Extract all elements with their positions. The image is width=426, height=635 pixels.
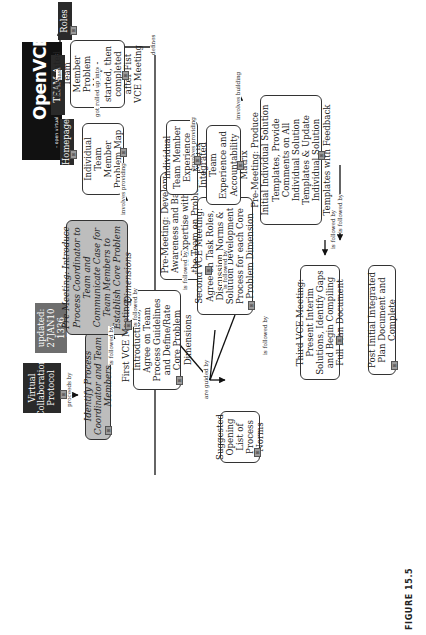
resource-badge-icon[interactable]: ⊞ bbox=[194, 156, 201, 165]
logo-wordmark: OpenVCE bbox=[30, 36, 50, 120]
figure-caption: FIGURE 15.5 bbox=[405, 568, 414, 630]
resource-badge-icon[interactable]: ⊞ bbox=[391, 361, 398, 370]
node-label: Roles bbox=[60, 9, 69, 32]
node-label: Post Initial Integrated Plan Document an… bbox=[367, 270, 398, 370]
resource-badge-icon[interactable]: ⊞ bbox=[70, 26, 77, 35]
individual-problem-map-node[interactable]: Individual Team Member Problem Map bbox=[82, 123, 124, 195]
link-involves-building: involves building bbox=[235, 72, 241, 120]
pre-meeting-solutions-node[interactable]: Pre-Meeting: Produce Initial Individual … bbox=[260, 95, 322, 225]
virtual-collaboration-protocol-node[interactable]: Virtual Collaboration Protocol bbox=[23, 363, 61, 413]
resource-badge-icon[interactable]: ⊞ bbox=[60, 390, 67, 399]
resource-badge-icon[interactable]: ⊞ bbox=[105, 426, 112, 435]
resource-badge-icon[interactable]: ⊞ bbox=[248, 301, 255, 310]
resource-badge-icon[interactable]: ⊞ bbox=[70, 150, 77, 159]
link-are-guided-by: are guided by bbox=[203, 360, 209, 399]
link-is-followed-by-1: is followed by bbox=[108, 326, 114, 365]
resource-badge-icon[interactable]: ⊞ bbox=[125, 321, 132, 330]
node-label: Virtual Collaboration Protocol bbox=[28, 359, 56, 417]
link-is-followed-by-2: is followed by bbox=[132, 288, 138, 327]
link-involves-providing-1: involves providing bbox=[120, 163, 126, 215]
post-initial-plan-node[interactable]: Post Initial Integrated Plan Document an… bbox=[368, 265, 396, 375]
third-vce-meeting-node[interactable]: Third VCE Meeting: Present Interim Solut… bbox=[300, 265, 340, 380]
resource-badge-icon[interactable]: ⊞ bbox=[176, 376, 183, 385]
resource-badge-icon[interactable]: ⊞ bbox=[122, 71, 129, 80]
link-is-followed-by-7: is followed by bbox=[337, 194, 343, 233]
link-got-rolled-up-into: got rolled up into bbox=[94, 68, 100, 117]
pre-meeting-intro-node[interactable]: Pre-Meeting: Introduce Process Coordinat… bbox=[66, 220, 128, 335]
link-defines: defines bbox=[150, 35, 156, 55]
concept-map-diagram: OpenVCE – open virtual collaboration env… bbox=[0, 0, 426, 635]
resource-badge-icon[interactable]: ⊞ bbox=[336, 336, 343, 345]
first-vce-meeting-node[interactable]: First VCE Meeting: Introductions, Agree … bbox=[133, 290, 181, 390]
resource-badge-icon[interactable]: ⊞ bbox=[318, 151, 325, 160]
resource-badge-icon[interactable]: ⊞ bbox=[205, 266, 212, 275]
link-is-followed-by-3: is followed by bbox=[182, 251, 188, 290]
resource-badge-icon[interactable]: ⊞ bbox=[254, 448, 261, 457]
resource-badge-icon[interactable]: ⊞ bbox=[237, 161, 244, 170]
resource-badge-icon[interactable]: ⊞ bbox=[120, 148, 127, 157]
node-label: Individual Team Member Problem Map bbox=[83, 128, 124, 190]
link-has: has bbox=[56, 70, 62, 80]
link-is-followed-by-6: is followed by bbox=[330, 210, 336, 249]
node-label: Third VCE Meeting: Present Interim Solut… bbox=[295, 270, 346, 375]
node-label: Pre-Meeting: Produce Initial Individual … bbox=[250, 100, 332, 220]
link-is-followed-by-5: is followed by bbox=[262, 316, 268, 355]
link-is-followed-by-4: is followed by bbox=[222, 250, 228, 289]
integrated-experience-matrix-node[interactable]: Integrated Team Experience and Accountab… bbox=[206, 125, 241, 205]
